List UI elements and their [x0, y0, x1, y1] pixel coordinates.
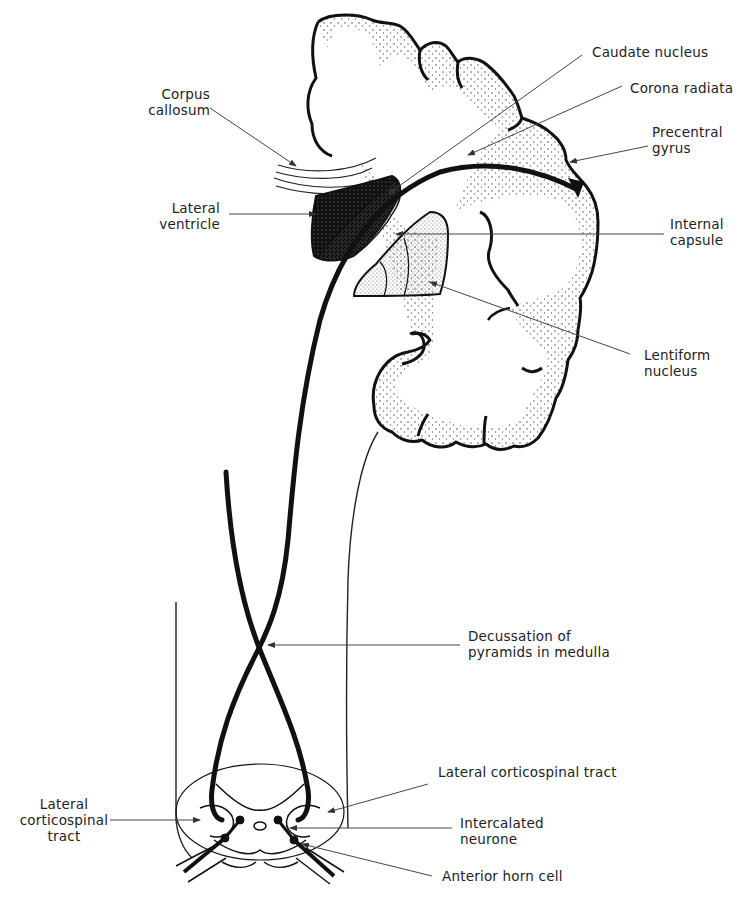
label-line: Lateral — [12, 796, 116, 812]
label-line: neurone — [460, 831, 544, 847]
label-line: nucleus — [644, 363, 710, 379]
label-caudate-nucleus: Caudate nucleus — [592, 44, 708, 60]
label-line: Internal — [670, 216, 724, 232]
label-line: Anterior horn cell — [442, 868, 563, 884]
label-line: Corona radiata — [630, 80, 733, 96]
label-line: Corpus — [124, 86, 210, 102]
label-line: Lentiform — [644, 347, 710, 363]
label-intercalated-neurone: Intercalated neurone — [460, 815, 544, 847]
spinal-cord-section — [176, 764, 344, 884]
label-line: gyrus — [652, 140, 723, 156]
label-line: capsule — [670, 232, 724, 248]
label-lateral-corticospinal-tract-right: Lateral corticospinal tract — [438, 764, 617, 780]
label-line: Lateral corticospinal tract — [438, 764, 617, 780]
label-precentral-gyrus: Precentral gyrus — [652, 124, 723, 156]
label-internal-capsule: Internal capsule — [670, 216, 724, 248]
label-corpus-callosum: Corpus callosum — [124, 86, 210, 118]
label-lateral-ventricle: Lateral ventricle — [120, 200, 220, 232]
label-line: Lateral — [120, 200, 220, 216]
label-line: ventricle — [120, 216, 220, 232]
label-lateral-corticospinal-tract-left: Lateral corticospinal tract — [12, 796, 116, 844]
label-lentiform-nucleus: Lentiform nucleus — [644, 347, 710, 379]
corticospinal-tract-diagram — [0, 0, 741, 911]
label-line: Precentral — [652, 124, 723, 140]
label-anterior-horn-cell: Anterior horn cell — [442, 868, 563, 884]
label-line: Decussation of — [468, 628, 610, 644]
label-line: callosum — [124, 102, 210, 118]
label-line: Caudate nucleus — [592, 44, 708, 60]
label-line: corticospinal — [12, 812, 116, 828]
label-line: pyramids in medulla — [468, 644, 610, 660]
label-corona-radiata: Corona radiata — [630, 80, 733, 96]
label-decussation-of-pyramids: Decussation of pyramids in medulla — [468, 628, 610, 660]
label-line: tract — [12, 828, 116, 844]
label-line: Intercalated — [460, 815, 544, 831]
